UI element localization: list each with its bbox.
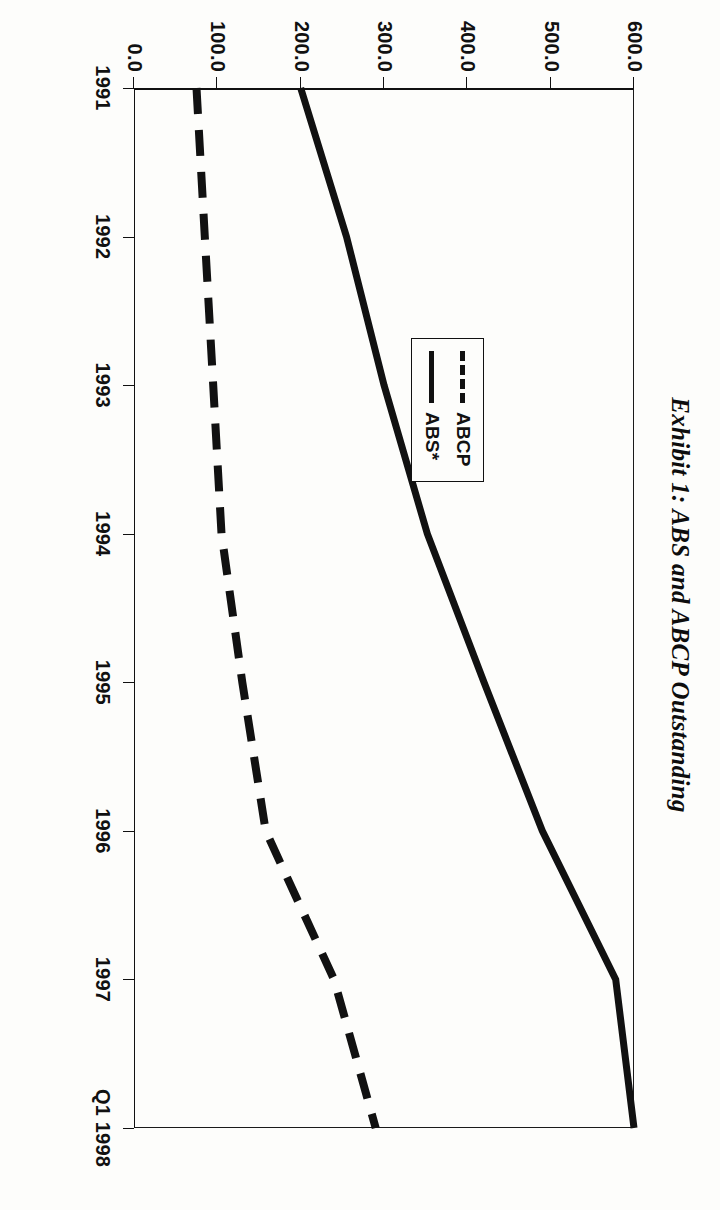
series-line-abs — [301, 88, 634, 1128]
x-axis-tick — [123, 682, 134, 683]
x-axis-tick-label: 1994 — [91, 511, 114, 556]
x-axis-tick-label: 1991 — [91, 65, 114, 110]
legend-item-abcp[interactable]: ABCP — [452, 351, 474, 467]
x-axis-tick-label: 1993 — [91, 362, 114, 407]
series-layer — [134, 88, 634, 1128]
y-axis-tick-label: 0.0 — [123, 44, 146, 72]
legend[interactable]: ABCP ABS* — [411, 338, 484, 482]
x-axis-tick — [123, 979, 134, 980]
y-axis-tick-label: 200.0 — [289, 21, 312, 72]
y-axis-tick-label: 500.0 — [539, 21, 562, 72]
legend-solid-line-icon — [430, 351, 435, 403]
x-axis-tick-label: 1997 — [91, 957, 114, 1002]
y-axis-tick — [216, 77, 217, 88]
x-axis-tick — [123, 237, 134, 238]
x-axis-tick-label: 1995 — [91, 660, 114, 705]
y-axis-tick — [550, 77, 551, 88]
x-axis-tick-label: 1992 — [91, 214, 114, 259]
x-axis-tick-label: Q1 1998 — [91, 1089, 114, 1167]
plot-area: 0.0100.0200.0300.0400.0500.0600.0 199119… — [134, 88, 634, 1128]
x-axis-tick — [123, 385, 134, 386]
legend-label-abcp: ABCP — [452, 412, 474, 467]
rotated-figure-wrapper: Exhibit 1: ABS and ABCP Outstanding 0.01… — [0, 0, 720, 1210]
x-axis-tick-label: 1996 — [91, 808, 114, 853]
x-axis-tick — [123, 88, 134, 89]
y-axis-tick — [300, 77, 301, 88]
y-axis-tick — [383, 77, 384, 88]
y-axis-tick-label: 400.0 — [456, 21, 479, 72]
y-axis-tick-label: 300.0 — [373, 21, 396, 72]
x-axis-tick — [123, 831, 134, 832]
y-axis-tick-label: 100.0 — [206, 21, 229, 72]
y-axis-tick — [466, 77, 467, 88]
chart-figure: Exhibit 1: ABS and ABCP Outstanding 0.01… — [0, 0, 720, 1210]
y-axis-tick-label: 600.0 — [623, 21, 646, 72]
y-axis-tick — [133, 77, 134, 88]
x-axis-tick — [123, 1128, 134, 1129]
legend-item-abs[interactable]: ABS* — [421, 351, 443, 467]
legend-label-abs: ABS* — [421, 412, 443, 460]
legend-dashed-line-icon — [461, 351, 466, 403]
y-axis-tick — [633, 77, 634, 88]
x-axis-tick — [123, 534, 134, 535]
page-title: Exhibit 1: ABS and ABCP Outstanding — [666, 0, 694, 1210]
